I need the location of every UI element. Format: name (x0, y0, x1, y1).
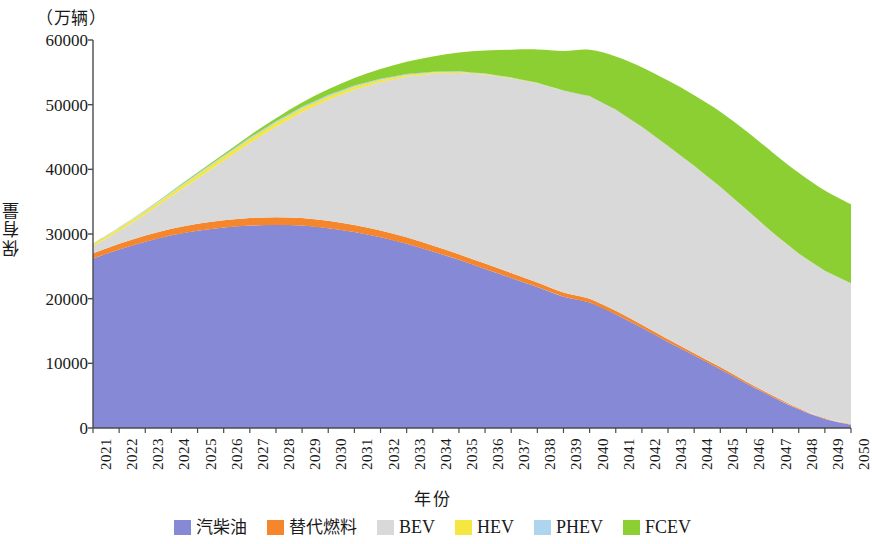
legend-swatch-icon (267, 520, 284, 535)
x-tick-label: 2046 (752, 438, 767, 470)
x-tick-label: 2037 (517, 438, 532, 470)
legend-label: HEV (477, 519, 514, 536)
x-tick-label: 2022 (125, 438, 140, 470)
x-tick-label: 2027 (256, 438, 271, 470)
x-tick-label: 2050 (857, 438, 872, 470)
legend-item-FCEV[interactable]: FCEV (623, 519, 691, 536)
x-tick-label: 2043 (674, 438, 689, 470)
chart-legend: 汽柴油替代燃料BEVHEVPHEVFCEV (0, 519, 865, 536)
legend-item-替代燃料[interactable]: 替代燃料 (267, 519, 357, 536)
x-tick-label: 2035 (465, 438, 480, 470)
x-tick-label: 2044 (700, 438, 715, 470)
x-tick-label: 2040 (596, 438, 611, 470)
x-tick-label: 2023 (151, 438, 166, 470)
legend-label: FCEV (645, 519, 691, 536)
legend-swatch-icon (377, 520, 394, 535)
x-axis-title: 年份 (0, 485, 865, 510)
x-tick-label: 2032 (387, 438, 402, 470)
x-tick-label: 2049 (831, 438, 846, 470)
x-tick-label: 2039 (569, 438, 584, 470)
legend-item-BEV[interactable]: BEV (377, 519, 435, 536)
x-tick-label: 2034 (439, 438, 454, 470)
x-tick-label: 2026 (230, 438, 245, 470)
x-tick-label: 2028 (282, 438, 297, 470)
x-tick-label: 2021 (99, 438, 114, 470)
x-tick-label: 2031 (360, 438, 375, 470)
x-tick-label: 2025 (204, 438, 219, 470)
legend-swatch-icon (174, 520, 191, 535)
legend-swatch-icon (534, 520, 551, 535)
legend-item-汽柴油[interactable]: 汽柴油 (174, 519, 247, 536)
legend-swatch-icon (623, 520, 640, 535)
legend-label: 替代燃料 (289, 519, 357, 536)
x-tick-label: 2047 (779, 438, 794, 470)
legend-swatch-icon (455, 520, 472, 535)
x-tick-label: 2024 (177, 438, 192, 470)
legend-item-HEV[interactable]: HEV (455, 519, 514, 536)
x-tick-label: 2038 (543, 438, 558, 470)
x-tick-label: 2048 (805, 438, 820, 470)
x-tick-label: 2042 (648, 438, 663, 470)
legend-label: PHEV (556, 519, 603, 536)
legend-label: BEV (399, 519, 435, 536)
x-tick-label: 2029 (308, 438, 323, 470)
legend-label: 汽柴油 (196, 519, 247, 536)
x-tick-label: 2033 (413, 438, 428, 470)
x-tick-label: 2036 (491, 438, 506, 470)
x-tick-label: 2030 (334, 438, 349, 470)
x-tick-label: 2041 (622, 438, 637, 470)
x-tick-label: 2045 (726, 438, 741, 470)
legend-item-PHEV[interactable]: PHEV (534, 519, 603, 536)
